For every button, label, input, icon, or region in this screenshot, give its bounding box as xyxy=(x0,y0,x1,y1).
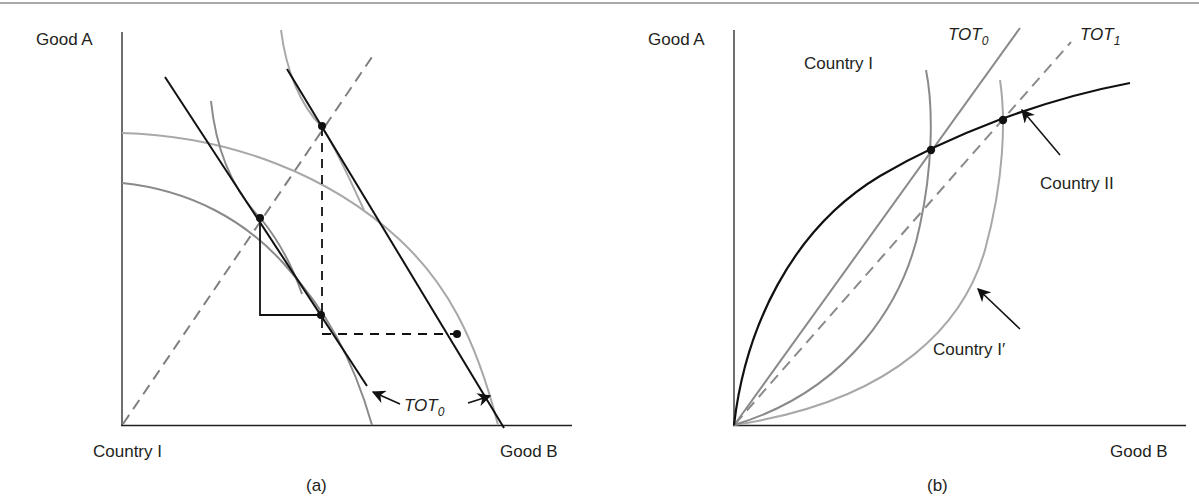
panel-b-country-ii-arrow-icon xyxy=(1022,110,1060,155)
panel-a-ppf-outer xyxy=(122,133,498,425)
panel-a-x-axis-label: Good B xyxy=(500,442,558,461)
panel-b-tot1-equilibrium-point xyxy=(999,116,1007,124)
panel-b-tot1-label: TOT1 xyxy=(1080,25,1120,48)
panel-a-origin-label: Country I xyxy=(93,442,162,461)
panel-a-consumption-point xyxy=(256,214,264,222)
panel-b-country-i-prime-curve xyxy=(734,80,1003,425)
panel-a-new-production-point xyxy=(453,330,461,338)
panel-b-tot0-ray xyxy=(735,28,1020,424)
panel-b-country-i-label: Country I xyxy=(804,54,873,73)
panel-b-country-i-prime-label: Country I′ xyxy=(933,340,1005,359)
panel-a-price-line-inner xyxy=(165,77,367,386)
panel-b-country-i-curve xyxy=(734,70,931,425)
panel-a-new-consumption-point xyxy=(318,122,326,130)
panel-b-caption: (b) xyxy=(927,476,948,495)
terms-of-trade-figure: Good A Country I Good B (a) TOT0 Good A … xyxy=(0,0,1199,497)
panel-b-country-ii-label: Country II xyxy=(1040,174,1114,193)
panel-b-country-ii-curve xyxy=(734,83,1130,425)
panel-a-caption: (a) xyxy=(306,476,327,495)
panel-b-x-axis-label: Good B xyxy=(1110,442,1168,461)
panel-b-y-axis-label: Good A xyxy=(648,30,705,49)
panel-b-tot0-label: TOT0 xyxy=(948,25,989,48)
panel-a-y-axis-label: Good A xyxy=(36,30,93,49)
panel-a-tot0-label: TOT0 xyxy=(404,396,445,419)
panel-b: Good A Good B (b) Country I Country II C… xyxy=(648,25,1186,495)
panel-b-country-i-prime-arrow-icon xyxy=(978,289,1020,329)
panel-b-tot1-ray xyxy=(735,42,1071,424)
panel-a-production-point xyxy=(317,311,325,319)
panel-a-ppf-inner xyxy=(122,183,372,425)
panel-a-consumption-ray xyxy=(123,57,372,424)
panel-b-tot0-equilibrium-point xyxy=(927,146,935,154)
panel-a-tot-arrow-left-icon xyxy=(373,392,400,404)
panel-a: Good A Country I Good B (a) TOT0 xyxy=(36,30,572,495)
